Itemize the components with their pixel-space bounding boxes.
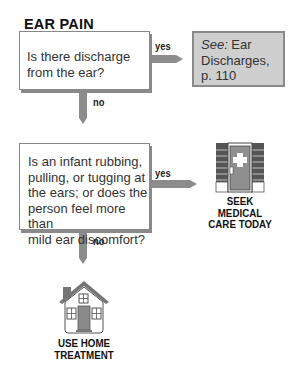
- question-box-1: Is there discharge from the ear?: [19, 31, 150, 90]
- question-2-line: mild ear discomfort?: [28, 232, 149, 248]
- yes-label-1: yes: [155, 40, 171, 52]
- see-label: See:: [201, 37, 228, 52]
- yes-label-2: yes: [155, 167, 171, 179]
- reference-box: See: Ear Discharges, p. 110: [192, 31, 285, 87]
- question-box-2: Is an infant rubbing, pulling, or tuggin…: [19, 143, 150, 230]
- medical-office-icon: [216, 143, 264, 192]
- house-icon: [59, 281, 109, 333]
- yes-arrow-1: [150, 55, 183, 63]
- no-label-1: no: [93, 96, 104, 108]
- page-title: EAR PAIN: [24, 16, 94, 32]
- question-2-line: Is an infant rubbing,: [28, 154, 149, 170]
- outcome-line: CARE TODAY: [206, 219, 274, 231]
- question-1-line: from the ear?: [27, 65, 149, 81]
- outcome-line: SEEK: [206, 196, 274, 208]
- question-2-line: the ears; or does the: [28, 185, 149, 201]
- question-2-line: person feel more than: [28, 201, 149, 232]
- outcome-line: USE HOME: [50, 338, 118, 350]
- reference-page: p. 110: [201, 68, 283, 84]
- no-label-2: no: [93, 235, 104, 247]
- question-2-line: pulling, or tugging at: [28, 170, 149, 186]
- seek-care-outcome: SEEK MEDICAL CARE TODAY: [206, 196, 274, 231]
- outcome-line: TREATMENT: [50, 350, 118, 362]
- reference-line-1: Ear: [228, 37, 252, 52]
- home-treatment-outcome: USE HOME TREATMENT: [50, 338, 118, 361]
- yes-arrow-2: [150, 180, 197, 188]
- no-arrow-1: [79, 92, 87, 124]
- question-1-line: Is there discharge: [27, 49, 149, 65]
- reference-line-2: Discharges,: [201, 53, 283, 69]
